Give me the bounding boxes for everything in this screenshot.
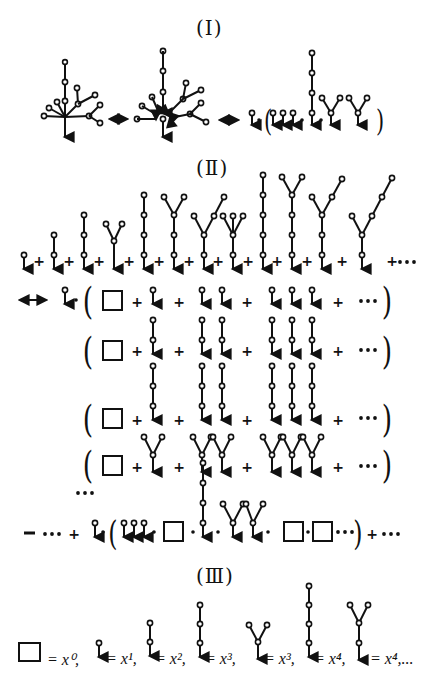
section-title-I: (Ⅰ)	[196, 16, 223, 40]
legend-eq-1: = x¹,	[106, 650, 137, 668]
chain-tree-2	[147, 620, 152, 656]
plus-sign: +	[212, 253, 224, 269]
chain-tree-1	[150, 287, 155, 304]
plus-sign: +	[173, 459, 185, 475]
chain-tree-2	[289, 317, 294, 354]
empty-box	[284, 522, 303, 541]
section-title-III: (Ⅲ)	[196, 564, 234, 588]
chain-tree-2	[269, 317, 274, 354]
plus-sign: +	[131, 412, 143, 428]
branching-tree	[210, 434, 233, 472]
plus-sign: +	[131, 294, 143, 310]
chain-tree-3	[199, 363, 204, 420]
branching-tree	[260, 434, 283, 472]
plus-sign: +	[332, 343, 344, 359]
right-paren: )	[382, 443, 392, 487]
left-paren: (	[83, 279, 93, 323]
branching-tree	[300, 434, 323, 472]
legend-eq-6: = x⁴,...	[370, 650, 413, 668]
empty-box	[103, 456, 122, 475]
empty-box	[103, 409, 122, 428]
plus-sign: +	[271, 253, 283, 269]
plus-sign: +	[93, 253, 105, 269]
chain-tree-1	[219, 287, 224, 304]
plus-sign: +	[241, 343, 253, 359]
branching-tree	[243, 501, 265, 537]
plus-sign: +	[173, 412, 185, 428]
legend-eq-3: = x³,	[205, 650, 236, 668]
left-paren: (	[108, 514, 117, 553]
chain-tree-1	[96, 640, 101, 657]
branching-tree	[319, 95, 342, 125]
chain-tree-1	[269, 287, 274, 304]
branching-tree	[103, 221, 124, 269]
plus-sign: +	[242, 253, 254, 269]
right-paren: )	[382, 279, 392, 323]
chain-tree-3	[150, 363, 155, 420]
plus-sign: +	[241, 459, 253, 475]
chain-tree-5	[260, 172, 265, 269]
chain-tree-3	[289, 363, 294, 420]
plus-sign: +	[131, 343, 143, 359]
chain-tree-4	[306, 583, 311, 657]
branching-tree	[141, 434, 164, 472]
plus-sign: +	[33, 253, 45, 269]
empty-box	[164, 522, 183, 541]
chain-tree-1	[62, 287, 67, 304]
chain-tree-1	[21, 252, 26, 269]
chain-tree-3	[81, 212, 86, 269]
plus-sign: +	[301, 253, 313, 269]
plus-sign: +	[366, 526, 378, 542]
chain-tree-3	[309, 363, 314, 420]
chain-tree-1	[280, 110, 285, 125]
plus-sign: +	[131, 459, 143, 475]
chain-tree-3	[269, 363, 274, 420]
plus-sign: +	[332, 459, 344, 475]
plus-sign: +	[332, 412, 344, 428]
section-title-II: (Ⅱ)	[196, 156, 228, 180]
left-paren: (	[83, 443, 93, 487]
plus-sign: +	[183, 253, 195, 269]
chain-tree-3	[219, 363, 224, 420]
chain-tree-3	[197, 602, 202, 657]
right-paren: )	[353, 514, 362, 553]
chain-tree-2	[150, 317, 155, 354]
legend-eq-0: = x⁰,	[47, 650, 79, 669]
right-paren: )	[382, 397, 392, 441]
empty-box	[19, 643, 40, 661]
empty-box	[103, 341, 122, 360]
plus-sign: +	[153, 253, 165, 269]
branching-tree	[220, 501, 245, 537]
legend-eq-2: = x²,	[155, 650, 186, 668]
right-paren: )	[376, 103, 384, 138]
chain-tree-2	[309, 317, 314, 354]
chain-tree-1	[199, 287, 204, 304]
plus-sign: +	[241, 294, 253, 310]
chain-tree-2	[51, 232, 56, 269]
chain-tree-4	[141, 192, 146, 269]
plus-sign: +	[123, 253, 135, 269]
plus-sign: +	[332, 294, 344, 310]
branching-tree	[346, 95, 369, 125]
branching-tree	[280, 434, 303, 472]
legend-eq-5: = x⁴,	[314, 650, 345, 668]
branching-tree	[347, 602, 370, 660]
left-paren: (	[264, 103, 272, 138]
chain-tree-1	[92, 520, 97, 537]
plus-sign: +	[241, 412, 253, 428]
chain-tree-4	[309, 50, 314, 125]
chain-tree-1	[249, 110, 254, 125]
plus-sign: +	[386, 253, 398, 269]
chain-tree-2	[219, 317, 224, 354]
plus-sign: +	[63, 253, 75, 269]
legend-eq-4: = x³,	[264, 650, 295, 668]
chain-tree-1	[121, 520, 126, 537]
plus-sign: +	[173, 294, 185, 310]
right-paren: )	[382, 329, 392, 373]
left-paren: (	[83, 397, 93, 441]
chain-tree-1	[141, 520, 146, 537]
plus-sign: +	[68, 526, 80, 542]
chain-tree-1	[290, 110, 295, 125]
chain-tree-1	[289, 287, 294, 304]
left-paren: (	[83, 329, 93, 373]
